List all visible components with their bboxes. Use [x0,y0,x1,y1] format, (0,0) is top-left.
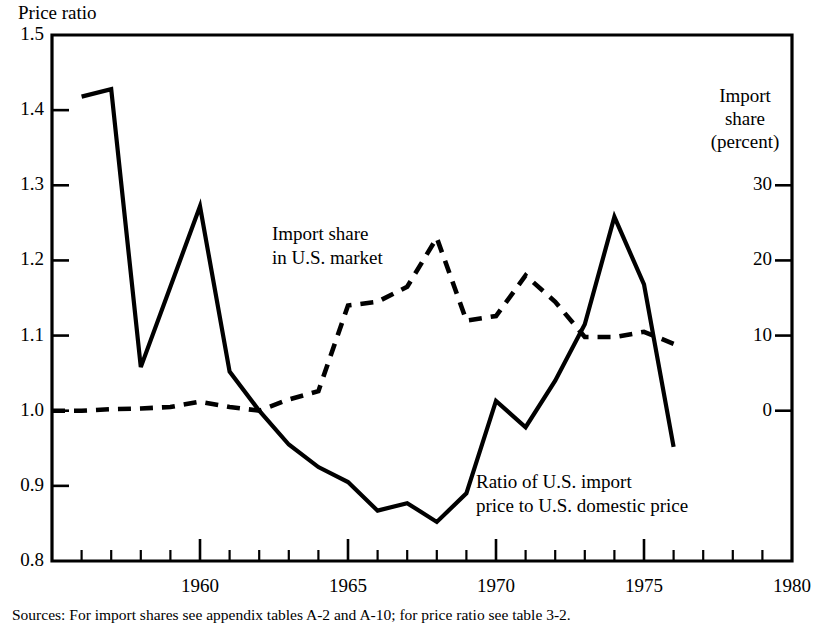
left-axis-title: Price ratio [18,2,97,24]
right-axis-title-line-3: (percent) [690,130,800,153]
annotation-price-ratio: Ratio of U.S. import price to U.S. domes… [476,470,688,518]
ytick-label-1.2: 1.2 [0,248,44,270]
right-axis-title-line-1: Import [690,84,800,107]
annotation-import-share-line-1: Import share [272,222,383,246]
xtick-label-1960: 1960 [168,575,232,597]
right-axis-title-line-2: share [690,107,800,130]
xtick-label-1980: 1980 [760,575,824,597]
ytick-label-1.5: 1.5 [0,23,44,45]
y2tick-label-30: 30 [734,173,772,195]
series-line-price-ratio [82,89,674,522]
annotation-import-share-line-2: in U.S. market [272,246,383,270]
ytick-label-0.8: 0.8 [0,549,44,571]
figure-container: Price ratio Import share (percent) Impor… [0,0,824,634]
ytick-label-1.4: 1.4 [0,98,44,120]
annotation-price-ratio-line-2: price to U.S. domestic price [476,494,688,518]
ytick-label-1.1: 1.1 [0,324,44,346]
ytick-label-1.3: 1.3 [0,173,44,195]
annotation-import-share: Import share in U.S. market [272,222,383,270]
y2tick-label-10: 10 [734,324,772,346]
right-axis-title: Import share (percent) [690,84,800,153]
y2tick-label-0: 0 [734,399,772,421]
ytick-label-0.9: 0.9 [0,474,44,496]
ytick-label-1.0: 1.0 [0,399,44,421]
xtick-label-1975: 1975 [612,575,676,597]
xtick-label-1965: 1965 [316,575,380,597]
source-note: Sources: For import shares see appendix … [12,606,571,624]
xtick-label-1970: 1970 [464,575,528,597]
y2tick-label-20: 20 [734,248,772,270]
annotation-price-ratio-line-1: Ratio of U.S. import [476,470,688,494]
